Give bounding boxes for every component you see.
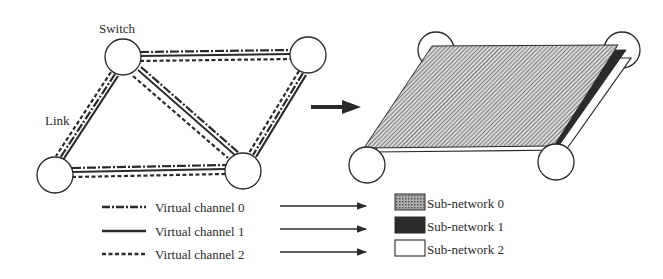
svg-text:Virtual channel 0: Virtual channel 0: [155, 200, 244, 215]
svg-text:Virtual channel 1: Virtual channel 1: [155, 224, 244, 239]
switch-node-top-left: [105, 39, 141, 75]
legend-item-channel-2: Virtual channel 2: [102, 247, 244, 262]
link-top: [140, 50, 291, 61]
link-right: [249, 71, 306, 157]
switch-label: Switch: [99, 21, 136, 36]
stack-node-bottom-right: [538, 144, 574, 180]
legend-item-subnetwork-0: Sub-network 0: [395, 194, 504, 211]
mapping-arrows: [280, 206, 366, 252]
switch-node-bottom-right: [225, 153, 261, 189]
physical-network: Switch Link: [37, 21, 326, 193]
sub-network-stack: [349, 32, 640, 183]
network-diagram: Switch Link Virtual channel 0 Virtual ch…: [0, 0, 663, 279]
svg-text:Sub-network 1: Sub-network 1: [427, 219, 504, 234]
link-diagonal: [133, 67, 239, 158]
legend-item-subnetwork-1: Sub-network 1: [395, 217, 504, 234]
link-label: Link: [45, 113, 70, 128]
link-bottom: [72, 165, 226, 177]
svg-text:Virtual channel 2: Virtual channel 2: [155, 247, 244, 262]
switch-node-bottom-left: [37, 157, 73, 193]
legend-item-channel-1: Virtual channel 1: [102, 224, 244, 239]
svg-text:Sub-network 0: Sub-network 0: [427, 196, 504, 211]
subnetwork-legend: Sub-network 0 Sub-network 1 Sub-network …: [395, 194, 504, 257]
switch-node-top-right: [290, 37, 326, 73]
hatched-swatch-icon: [395, 194, 425, 210]
legend-item-channel-0: Virtual channel 0: [102, 200, 244, 215]
svg-text:Sub-network 2: Sub-network 2: [427, 242, 504, 257]
transform-arrow: [311, 100, 361, 114]
white-swatch-icon: [395, 240, 425, 256]
channel-legend: Virtual channel 0 Virtual channel 1 Virt…: [102, 200, 244, 262]
sub-network-0-layer: [364, 45, 618, 148]
legend-item-subnetwork-2: Sub-network 2: [395, 240, 504, 257]
stack-node-bottom-left: [349, 147, 385, 183]
dark-swatch-icon: [395, 217, 425, 233]
